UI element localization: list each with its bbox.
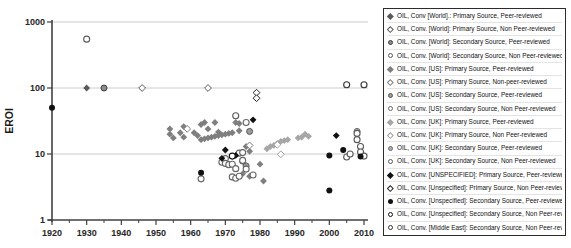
data-point xyxy=(257,161,264,168)
circle-open-icon xyxy=(387,53,394,58)
legend-item: OIL, Conv. [Unspecified]: Primary Source… xyxy=(387,182,562,195)
data-point xyxy=(101,85,107,91)
data-point xyxy=(205,126,212,133)
data-point xyxy=(198,176,204,182)
circle-open-icon xyxy=(387,225,394,230)
legend-item-label: OIL, Conv. [UK]: Secondary Source, Non P… xyxy=(397,158,556,164)
data-point xyxy=(240,150,246,156)
y-tick-label: 1000 xyxy=(25,17,45,27)
scatter-plot-area: 1000100101192019301940195019601970198019… xyxy=(0,0,380,248)
legend-item: OIL, Conv. [Unspecified]: Secondary Sour… xyxy=(387,209,562,222)
legend-item: OIL, Conv. [UK]: Secondary Source, Peer-… xyxy=(387,142,562,155)
data-point xyxy=(247,128,253,134)
data-point xyxy=(243,166,249,172)
data-point xyxy=(243,120,249,126)
circle-ring-icon xyxy=(387,93,394,98)
data-point xyxy=(340,147,346,153)
data-point xyxy=(354,137,360,143)
data-point xyxy=(358,153,364,159)
data-point xyxy=(250,116,257,123)
y-axis-title: EROI xyxy=(3,108,15,134)
legend-item-label: OIL, Conv. [US]: Primary Source, Non-pee… xyxy=(397,79,547,85)
data-point xyxy=(260,178,267,185)
data-point xyxy=(236,127,243,134)
legend-item-label: OIL, Conv. [Middle East]: Secondary Sour… xyxy=(397,225,562,231)
x-tick-label: 1930 xyxy=(77,228,97,238)
legend-item-label: OIL, Conv. [UK]: Secondary Source, Peer-… xyxy=(397,145,542,151)
circle-ring-icon xyxy=(387,40,394,45)
x-tick-label: 1980 xyxy=(250,228,270,238)
legend: OIL, Conv [World].: Primary Source, Peer… xyxy=(383,8,566,236)
data-point xyxy=(222,147,229,154)
legend-item-label: OIL, Conv. [US]: Secondary Source, Peer-… xyxy=(397,92,542,98)
eroi-scatter-figure: 1000100101192019301940195019601970198019… xyxy=(0,0,571,248)
data-point xyxy=(240,157,246,163)
legend-item: OIL, Conv. [UK]: Secondary Source, Non P… xyxy=(387,156,562,169)
diamond-open-icon xyxy=(387,27,394,32)
legend-item: OIL, Conv. [UK]: Primary Source, Non Pee… xyxy=(387,129,562,142)
data-point xyxy=(326,152,332,158)
legend-item: OIL, Conv. [Unspecified]: Secondary Sour… xyxy=(387,195,562,208)
diamond-open-icon xyxy=(387,133,394,138)
data-point xyxy=(205,85,212,92)
legend-item-label: OIL, Conv [World].: Primary Source, Peer… xyxy=(397,13,542,19)
data-point xyxy=(84,36,90,42)
legend-item-label: OIL, Conv. [World]: Secondary Source, Pe… xyxy=(397,39,550,45)
legend-item-label: OIL, Conv. [UK]: Primary Source, Peer-re… xyxy=(397,119,534,125)
diamond-filled-icon xyxy=(387,173,394,178)
legend-item-label: OIL, Conv. [Unspecified]: Secondary Sour… xyxy=(397,211,562,217)
data-point xyxy=(233,166,239,172)
data-point xyxy=(212,119,219,126)
data-point xyxy=(347,151,353,157)
x-tick-label: 1960 xyxy=(181,228,201,238)
data-point xyxy=(253,95,260,102)
legend-item-label: OIL, Conv. [US]: Secondary Source, Non P… xyxy=(397,106,556,112)
y-tick-label: 1 xyxy=(40,215,45,225)
data-point xyxy=(333,132,340,139)
legend-item-label: OIL, Conv. [World]: Primary Source, Non … xyxy=(397,26,555,32)
legend-item: OIL, Conv [World].: Primary Source, Peer… xyxy=(387,10,562,23)
y-tick-label: 100 xyxy=(30,83,45,93)
data-point xyxy=(198,170,204,176)
legend-item-label: OIL, Conv. [Unspecified]: Primary Source… xyxy=(397,185,562,191)
x-tick-label: 1940 xyxy=(111,228,131,238)
x-tick-label: 1950 xyxy=(146,228,166,238)
legend-item-label: OIL, Conv. [UK]: Primary Source, Non Pee… xyxy=(397,132,547,138)
legend-item: OIL, Conv. [US]: Secondary Source, Non P… xyxy=(387,103,562,116)
x-tick-label: 2010 xyxy=(354,228,374,238)
circle-open-icon xyxy=(387,106,394,111)
circle-open-icon xyxy=(387,212,394,217)
legend-item: OIL, Conv. [US]: Primary Source, Peer-re… xyxy=(387,63,562,76)
data-point xyxy=(354,130,360,136)
scatter-plot-canvas: 1000100101192019301940195019601970198019… xyxy=(0,0,380,248)
legend-item: OIL, Conv. [World]: Primary Source, Non … xyxy=(387,23,562,36)
data-point xyxy=(83,85,90,92)
x-tick-label: 1970 xyxy=(215,228,235,238)
diamond-open-icon xyxy=(387,80,394,85)
diamond-filled-icon xyxy=(387,67,394,72)
legend-item: OIL, Conv. [UK]: Primary Source, Peer-re… xyxy=(387,116,562,129)
legend-item-label: OIL, Conv. [World]: Secondary Source, No… xyxy=(397,53,562,59)
circle-ring-icon xyxy=(387,146,394,151)
legend-item-label: OIL, Conv. [Unspecified]: Secondary Sour… xyxy=(397,198,562,204)
x-tick-label: 1920 xyxy=(42,228,62,238)
data-point xyxy=(236,173,242,179)
y-tick-label: 10 xyxy=(35,149,45,159)
legend-item: OIL, Conv. [UNSPECIFIED]: Primary Source… xyxy=(387,169,562,182)
data-point xyxy=(344,82,350,88)
data-point xyxy=(49,105,55,111)
circle-open-icon xyxy=(387,159,394,164)
diamond-filled-icon xyxy=(387,120,394,125)
diamond-filled-icon xyxy=(387,14,394,19)
legend-item: OIL, Conv. [World]: Secondary Source, Pe… xyxy=(387,36,562,49)
diamond-open-icon xyxy=(387,186,394,191)
data-point xyxy=(139,85,146,92)
legend-item: OIL, Conv. [US]: Secondary Source, Peer-… xyxy=(387,89,562,102)
data-point xyxy=(229,153,235,159)
data-point xyxy=(233,113,239,119)
legend-item-label: OIL, Conv. [US]: Primary Source, Peer-re… xyxy=(397,66,534,72)
data-point xyxy=(326,187,332,193)
x-tick-label: 1990 xyxy=(285,228,305,238)
legend-item: OIL, Conv. [Middle East]: Secondary Sour… xyxy=(387,222,562,234)
data-point xyxy=(361,82,367,88)
